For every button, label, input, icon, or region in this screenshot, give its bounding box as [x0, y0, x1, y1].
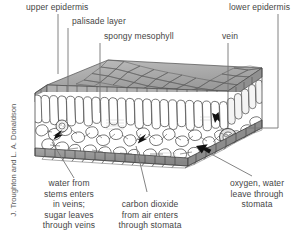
label-palisade-layer: palisade layer	[72, 16, 126, 27]
label-line: in veins;	[30, 199, 108, 210]
leaf-structure-figure: upper epidermis palisade layer spongy me…	[0, 0, 304, 242]
label-line: sugar leaves	[30, 210, 108, 221]
label-spongy-mesophyll: spongy mesophyll	[104, 31, 174, 42]
label-line: leave through	[213, 189, 301, 200]
label-line: carbon dioxide	[102, 199, 198, 210]
label-lower-epidermis: lower epidermis	[229, 2, 290, 13]
label-upper-epidermis: upper epidermis	[26, 2, 88, 13]
label-line: stems enters	[30, 189, 108, 200]
label-line: from air enters	[102, 210, 198, 221]
label-line: through veins	[30, 220, 108, 231]
label-line: through stomata	[102, 220, 198, 231]
label-water-from-veins: water from stems enters in veins; sugar …	[30, 178, 108, 231]
photo-credit: J. Troughton and L. A. Donaldson	[9, 97, 18, 217]
label-line: stomata	[213, 199, 301, 210]
label-line: water from	[30, 178, 108, 189]
label-vein: vein	[222, 31, 238, 42]
vein-bundle-secondary	[56, 120, 68, 132]
label-carbon-dioxide: carbon dioxide from air enters through s…	[102, 199, 198, 231]
label-oxygen-water: oxygen, water leave through stomata	[213, 178, 301, 210]
label-line: oxygen, water	[213, 178, 301, 189]
